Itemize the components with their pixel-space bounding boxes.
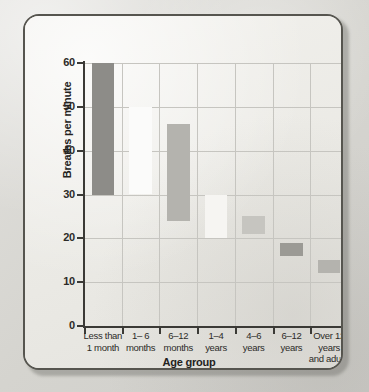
y-tick-mark — [77, 281, 83, 283]
gridline-horizontal — [84, 238, 343, 239]
gridline-horizontal — [84, 151, 343, 152]
y-axis-title: Breaths per minute — [61, 60, 73, 200]
y-tick-mark — [77, 106, 83, 108]
y-tick-mark — [77, 325, 83, 327]
x-axis-title: Age group — [129, 356, 249, 368]
bar-6 — [280, 243, 303, 256]
y-tick-mark — [77, 194, 83, 196]
y-tick-label: 10 — [63, 275, 75, 287]
x-tick-label-line: Over 12 — [306, 330, 343, 342]
y-tick-mark — [77, 237, 83, 239]
gridline-vertical — [310, 63, 311, 326]
y-tick-mark — [77, 150, 83, 152]
gridline-horizontal — [84, 63, 343, 64]
gridline-horizontal — [84, 107, 343, 108]
bar-7 — [318, 260, 341, 273]
plot-area — [84, 63, 343, 326]
y-tick-mark — [77, 62, 83, 64]
bar-4 — [205, 195, 228, 239]
bar-2 — [129, 107, 152, 195]
gridline-horizontal — [84, 282, 343, 283]
bar-1 — [92, 63, 115, 195]
gridline-vertical — [197, 63, 198, 326]
y-tick-label-wrap: 20 — [47, 231, 75, 243]
gridline-vertical — [122, 63, 123, 326]
y-axis-line — [83, 61, 85, 328]
gridline-vertical — [159, 63, 160, 326]
x-tick-label-line: years — [306, 342, 343, 354]
y-tick-label: 20 — [63, 231, 75, 243]
gridline-vertical — [273, 63, 274, 326]
bar-3 — [167, 124, 190, 220]
chart-figure-frame: 0102030405060 Less than1 month1– 6months… — [23, 14, 343, 370]
y-tick-label-wrap: 10 — [47, 275, 75, 287]
y-tick-label: 0 — [69, 319, 75, 331]
gridline-vertical — [235, 63, 236, 326]
x-tick-label-7: Over 12yearsand adults — [306, 330, 343, 365]
x-tick-label-line: and adults — [306, 353, 343, 365]
bar-5 — [242, 216, 265, 234]
y-tick-label-wrap: 0 — [47, 319, 75, 331]
